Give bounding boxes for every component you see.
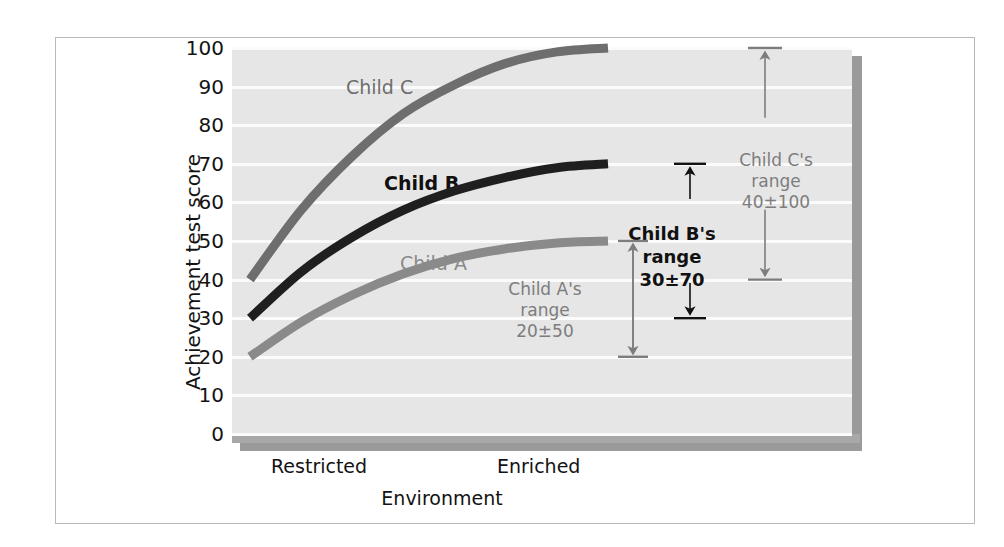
y-tick-label: 0 [164,424,224,444]
gridline [232,356,852,359]
y-tick-label: 90 [164,77,224,97]
gridline [232,394,852,397]
range-c-line2: range [716,171,836,192]
y-tick-label: 100 [164,38,224,58]
x-tick-enriched: Enriched [497,455,580,477]
gridline [232,124,852,127]
y-tick-label: 80 [164,115,224,135]
x-tick-restricted: Restricted [271,455,367,477]
y-axis-label: Achievement test score [181,142,205,402]
curve-label-child-b: Child B [384,172,459,194]
gridline [232,433,852,436]
range-label-child-a: Child A's range 20±50 [490,279,600,342]
gridline [232,240,852,243]
range-c-line3: 40±100 [716,192,836,213]
plot-bottom-shadow [240,442,862,451]
curve-label-child-a: Child A [400,252,467,274]
range-b-line1: Child B's [612,222,732,245]
range-a-line3: 20±50 [490,321,600,342]
range-c-line1: Child C's [716,150,836,171]
range-b-line2: range [612,245,732,268]
range-label-child-b: Child B's range 30±70 [612,222,732,291]
range-a-line1: Child A's [490,279,600,300]
curve-label-child-c: Child C [346,76,413,98]
y-axis-label-wrap: Achievement test score [125,90,165,350]
range-a-line2: range [490,300,600,321]
range-b-line3: 30±70 [612,268,732,291]
gridline [232,86,852,89]
plot-right-shadow [852,56,862,450]
range-label-child-c: Child C's range 40±100 [716,150,836,213]
plot-area [232,48,852,434]
chart-figure: 1009080706050403020100 Achievement test … [0,0,1004,547]
gridline [232,47,852,50]
x-axis-label: Environment [232,487,652,509]
